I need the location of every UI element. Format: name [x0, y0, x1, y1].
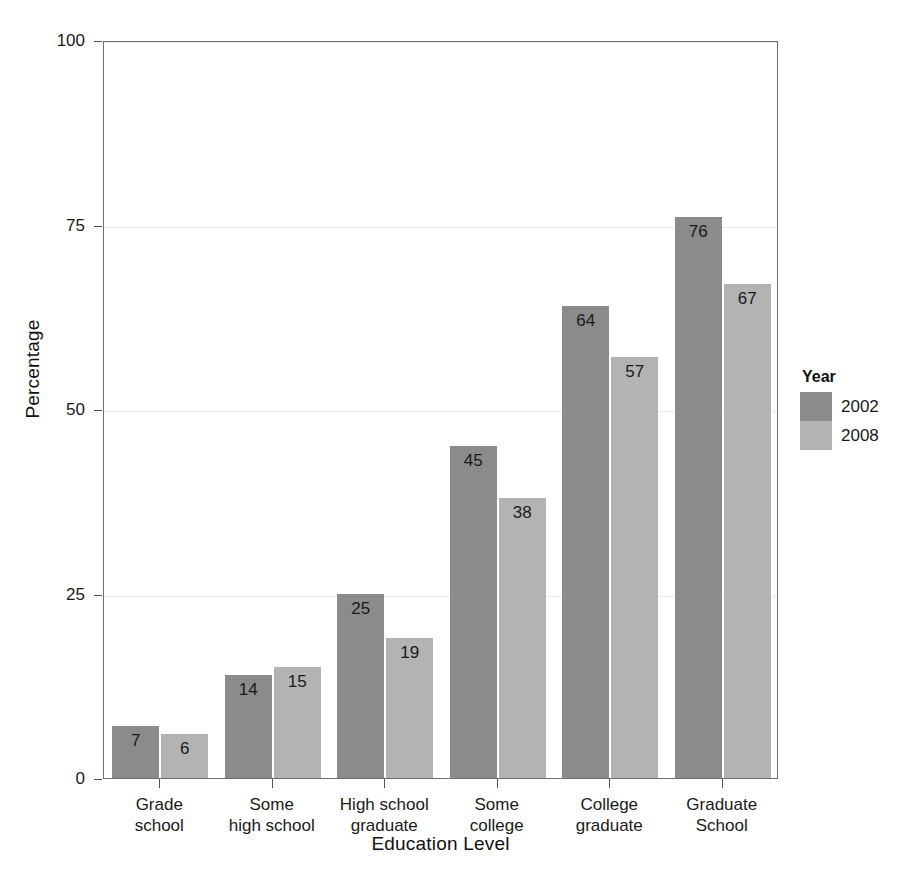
bar-value-label: 67: [724, 289, 771, 309]
y-tick-mark: [94, 595, 102, 596]
legend-label: 2002: [841, 397, 879, 417]
x-tick-label: Grade school: [103, 794, 216, 836]
legend-item-2008: 2008: [800, 421, 905, 450]
bar-2002-3: 45: [450, 446, 497, 778]
bar-value-label: 64: [562, 311, 609, 331]
bar-value-label: 14: [225, 680, 272, 700]
legend-entries: 20022008: [800, 392, 905, 450]
x-tick-mark: [159, 779, 160, 788]
legend-label: 2008: [841, 426, 879, 446]
bar-2002-0: 7: [112, 726, 159, 778]
bar-2002-5: 76: [675, 217, 722, 778]
legend-swatch: [800, 421, 832, 450]
bar-2002-4: 64: [562, 306, 609, 778]
bar-2002-1: 14: [225, 675, 272, 778]
y-tick-label: 75: [15, 216, 85, 236]
y-tick-mark: [94, 41, 102, 42]
y-tick-label: 50: [15, 400, 85, 420]
y-tick-label: 25: [15, 585, 85, 605]
y-tick-label: 0: [15, 769, 85, 789]
x-tick-label: College graduate: [553, 794, 666, 836]
bar-value-label: 38: [499, 503, 546, 523]
bar-2008-1: 15: [274, 667, 321, 778]
bar-chart: Percentage 0255075100 761415251945386457…: [0, 0, 913, 882]
x-tick-mark: [384, 779, 385, 788]
bar-2008-5: 67: [724, 284, 771, 778]
y-tick-mark: [94, 410, 102, 411]
x-tick-label: Graduate School: [666, 794, 779, 836]
y-axis-title: Percentage: [18, 0, 48, 738]
bar-value-label: 76: [675, 222, 722, 242]
y-tick-label: 100: [15, 31, 85, 51]
legend-swatch: [800, 392, 832, 421]
y-tick-mark: [94, 226, 102, 227]
x-tick-label: Some high school: [216, 794, 329, 836]
x-tick-mark: [497, 779, 498, 788]
x-tick-mark: [722, 779, 723, 788]
bar-2008-0: 6: [161, 734, 208, 778]
legend-item-2002: 2002: [800, 392, 905, 421]
plot-area: 7614152519453864577667: [103, 41, 778, 779]
bar-2008-2: 19: [386, 638, 433, 778]
bar-value-label: 19: [386, 643, 433, 663]
bar-2008-4: 57: [611, 357, 658, 778]
x-tick-label: Some college: [441, 794, 554, 836]
gridline: [104, 42, 777, 43]
x-tick-mark: [272, 779, 273, 788]
bar-value-label: 57: [611, 362, 658, 382]
legend-title: Year: [802, 368, 905, 386]
y-tick-mark: [94, 779, 102, 780]
bar-value-label: 15: [274, 672, 321, 692]
x-tick-label: High school graduate: [328, 794, 441, 836]
x-axis-title: Education Level: [103, 833, 778, 855]
bar-value-label: 7: [112, 731, 159, 751]
bar-2008-3: 38: [499, 498, 546, 778]
bar-value-label: 25: [337, 599, 384, 619]
bar-value-label: 45: [450, 451, 497, 471]
bar-value-label: 6: [161, 739, 208, 759]
legend: Year 20022008: [800, 368, 905, 450]
x-tick-mark: [609, 779, 610, 788]
bar-2002-2: 25: [337, 594, 384, 779]
